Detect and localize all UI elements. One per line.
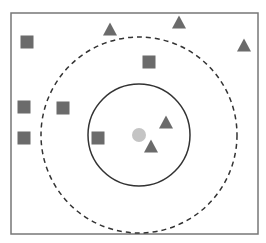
query-point-circle (132, 128, 146, 142)
triangle-point (159, 116, 173, 129)
triangle-point (144, 140, 158, 153)
class-triangle-points (103, 16, 251, 153)
triangle-point (237, 39, 251, 52)
triangle-point (103, 23, 117, 36)
square-point (92, 132, 105, 145)
square-point (18, 132, 31, 145)
square-point (57, 102, 70, 115)
square-point (143, 56, 156, 69)
diagram-frame (11, 13, 258, 234)
square-point (18, 101, 31, 114)
knn-diagram (0, 0, 266, 243)
triangle-point (172, 16, 186, 29)
square-point (21, 36, 34, 49)
